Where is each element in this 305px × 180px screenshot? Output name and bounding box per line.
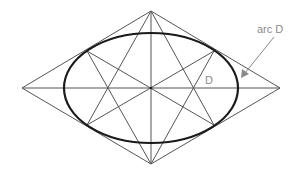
arrowhead-icon [241, 69, 249, 78]
point-d-label: D [205, 74, 213, 86]
center-point [150, 87, 153, 90]
ellipse-construction-diagram: arc D D [0, 0, 305, 180]
arc-d-leader-line [245, 37, 274, 73]
diagram-canvas: arc D D [0, 0, 305, 180]
arc-d-label: arc D [257, 23, 283, 35]
